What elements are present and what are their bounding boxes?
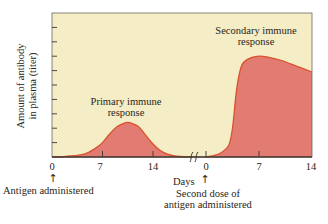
x-tick-label-p2-14: 14 xyxy=(306,161,317,172)
x-tick-label-p1-7: 7 xyxy=(97,161,102,172)
x-tick-label-p2-0: 0 xyxy=(203,161,208,172)
primary-label-line1: Primary immune xyxy=(86,96,166,107)
primary-response-label: Primary immune response xyxy=(86,96,166,118)
y-axis-label-line2: in plasma (titer) xyxy=(27,16,39,156)
secondary-response-label: Secondary immune response xyxy=(206,25,306,47)
primary-label-line2: response xyxy=(86,107,166,118)
second-dose-label: Second dose of antigen administered xyxy=(156,188,260,210)
y-axis-label: Amount of antibody in plasma (titer) xyxy=(15,16,39,156)
x-tick-label-p2-7: 7 xyxy=(256,161,261,172)
secondary-label-line1: Secondary immune xyxy=(206,25,306,36)
antigen-administered-label: Antigen administered xyxy=(3,185,94,196)
second-dose-arrow-icon: ↑ xyxy=(200,174,209,185)
antigen-arrow-icon: ↑ xyxy=(48,173,57,184)
second-dose-line2: antigen administered xyxy=(156,199,260,210)
x-axis-label: Days xyxy=(173,176,195,187)
second-dose-line1: Second dose of xyxy=(156,188,260,199)
x-tick-label-p1-0: 0 xyxy=(49,161,54,172)
secondary-label-line2: response xyxy=(206,36,306,47)
y-axis-label-line1: Amount of antibody xyxy=(15,16,27,156)
x-tick-label-p1-14: 14 xyxy=(148,161,159,172)
